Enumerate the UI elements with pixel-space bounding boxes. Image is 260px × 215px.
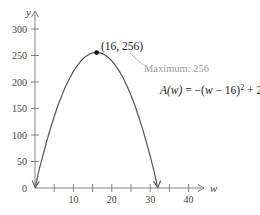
x-tick-label-40: 40 bbox=[184, 194, 194, 205]
x-tick-labels: 10 20 30 40 bbox=[68, 194, 193, 205]
y-tick-label-200: 200 bbox=[12, 77, 27, 88]
y-axis-label: y bbox=[25, 6, 31, 18]
y-tick-label-300: 300 bbox=[12, 24, 27, 35]
parabola-chart: 10 20 30 40 w 0 50 100 150 200 250 300 y… bbox=[0, 0, 260, 215]
y-tick-label-250: 250 bbox=[12, 50, 27, 61]
y-tick-label-50: 50 bbox=[17, 156, 27, 167]
x-tick-label-10: 10 bbox=[68, 194, 78, 205]
formula-eq: = −( bbox=[182, 84, 205, 97]
y-tick-label-100: 100 bbox=[12, 130, 27, 141]
parabola-curve bbox=[36, 52, 158, 185]
vertex-point bbox=[94, 50, 99, 55]
x-axis-label: w bbox=[210, 182, 218, 194]
x-tick-label-20: 20 bbox=[107, 194, 117, 205]
formula-tail: + 256 bbox=[244, 84, 260, 96]
y-tick-label-0: 0 bbox=[22, 183, 27, 194]
formula-mid: − 16) bbox=[213, 84, 241, 97]
formula-lhs: A(w) bbox=[159, 84, 183, 97]
y-tick-label-150: 150 bbox=[12, 103, 27, 114]
x-tick-label-30: 30 bbox=[145, 194, 155, 205]
formula-label: A(w) = −(w − 16)2 + 256 bbox=[159, 83, 260, 97]
vertex-label: (16, 256) bbox=[101, 40, 143, 53]
y-tick-labels: 0 50 100 150 200 250 300 bbox=[12, 24, 27, 194]
maximum-leader-line bbox=[130, 53, 143, 65]
maximum-callout: Maximum: 256 bbox=[144, 63, 209, 74]
